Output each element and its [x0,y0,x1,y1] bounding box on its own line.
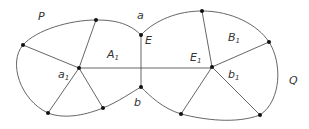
spoke-a1-left [23,45,79,68]
label-b: b [134,96,141,109]
label-a: a [137,9,144,22]
region-q-boundary [141,11,278,120]
label-a1-vertex: a1 [58,68,69,82]
spoke-b1-right [212,42,269,67]
label-e: E [145,34,152,47]
graph-diagram: P Q a E b A1 a1 E1 B1 b1 [0,0,309,129]
vertex-a [139,33,143,37]
label-q: Q [289,74,298,87]
label-b1-region: B1 [228,31,240,45]
vertex-a1 [77,66,81,70]
vertex-b1 [210,65,214,69]
vertex-q-bottom-left [179,112,183,116]
spoke-a1-top [79,20,96,68]
vertex-p-bottom-left [46,111,50,115]
label-p: P [38,10,45,23]
spoke-b1-bottom-left [181,67,212,114]
vertex-p-top [94,18,98,22]
vertex-q-top [200,9,204,13]
vertex-q-bottom-right [258,113,262,117]
vertex-q-right [267,40,271,44]
spoke-a1-bottom-right [79,68,103,108]
vertex-b [139,85,143,89]
vertex-p-bottom-right [101,106,105,110]
label-b1-vertex: b1 [228,68,239,82]
label-e1: E1 [190,51,201,65]
spoke-b1-top [202,11,212,67]
label-a1-region: A1 [106,48,119,62]
vertex-p-left [21,43,25,47]
